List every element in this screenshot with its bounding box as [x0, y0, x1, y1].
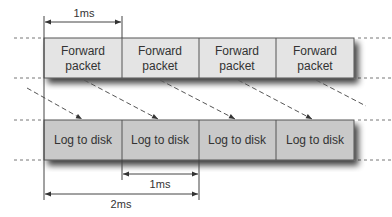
forward-packet-label: packet [297, 59, 333, 73]
forward-packet-label: Forward [293, 44, 337, 58]
bottom-2ms-label: 2ms [111, 198, 132, 210]
forward-packet-label: Forward [61, 44, 105, 58]
pipeline-diagram: Forward packet Forward packet Forward pa… [0, 0, 392, 217]
forward-packet-row: Forward packet Forward packet Forward pa… [44, 38, 354, 78]
log-to-disk-label: Log to disk [208, 133, 267, 147]
log-to-disk-label: Log to disk [54, 133, 113, 147]
forward-packet-label: Forward [138, 44, 182, 58]
top-1ms-label: 1ms [74, 7, 95, 19]
forward-packet-label: packet [219, 59, 255, 73]
log-to-disk-label: Log to disk [131, 133, 190, 147]
bottom-1ms-label: 1ms [150, 178, 171, 190]
forward-packet-label: Forward [215, 44, 259, 58]
forward-packet-label: packet [65, 59, 101, 73]
forward-packet-label: packet [142, 59, 178, 73]
handoff-arrows [27, 80, 366, 119]
log-to-disk-row: Log to disk Log to disk Log to disk Log … [44, 120, 354, 160]
log-to-disk-label: Log to disk [286, 133, 345, 147]
